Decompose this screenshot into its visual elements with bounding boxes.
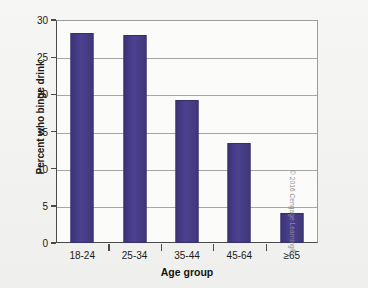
x-axis-tick bbox=[108, 244, 109, 251]
y-axis-tick-label: 5 bbox=[8, 200, 48, 211]
bar bbox=[71, 33, 94, 243]
bar-chart-figure: Percent who binge drink 051015202530 18-… bbox=[0, 0, 368, 288]
y-axis-tick-label: 0 bbox=[8, 238, 48, 249]
y-axis-tick-label: 20 bbox=[8, 89, 48, 100]
bar-slot bbox=[213, 20, 265, 243]
bar-slot bbox=[161, 20, 213, 243]
bar-slot bbox=[56, 20, 108, 243]
copyright-notice: © 2016 Cengage Learning® bbox=[289, 170, 296, 288]
x-axis-tick bbox=[161, 244, 162, 251]
bar bbox=[228, 143, 251, 243]
x-axis-tick-label: 35-44 bbox=[174, 250, 200, 261]
x-axis-tick-label: 25-34 bbox=[122, 250, 148, 261]
bar bbox=[175, 100, 198, 243]
x-axis-title: Age group bbox=[56, 266, 318, 278]
bar-slot bbox=[108, 20, 160, 243]
x-axis-tick bbox=[266, 244, 267, 251]
x-axis-tick bbox=[213, 244, 214, 251]
y-axis-tick-label: 10 bbox=[8, 163, 48, 174]
y-axis-tick-label: 15 bbox=[8, 126, 48, 137]
y-axis-tick-label: 30 bbox=[8, 15, 48, 26]
y-axis-tick-label: 25 bbox=[8, 52, 48, 63]
x-axis-tick-label: 18-24 bbox=[69, 250, 95, 261]
x-axis-tick-label: 45-64 bbox=[227, 250, 253, 261]
bar bbox=[123, 35, 146, 243]
